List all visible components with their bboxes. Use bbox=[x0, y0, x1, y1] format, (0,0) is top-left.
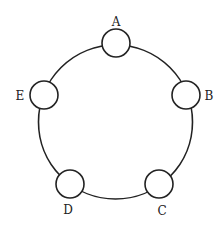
node-label: C bbox=[157, 204, 166, 218]
ring-diagram: ABCDE bbox=[0, 0, 224, 228]
node-d: D bbox=[56, 170, 84, 217]
node-label: A bbox=[111, 15, 121, 29]
ring-diagram-svg: ABCDE bbox=[0, 0, 224, 228]
node-label: D bbox=[63, 203, 73, 217]
node-circle bbox=[102, 29, 130, 57]
node-circle bbox=[145, 170, 173, 198]
node-circle bbox=[30, 81, 58, 109]
node-label: B bbox=[205, 89, 214, 103]
node-e: E bbox=[16, 81, 58, 109]
node-circle bbox=[172, 81, 200, 109]
node-label: E bbox=[16, 89, 25, 103]
node-a: A bbox=[102, 15, 130, 57]
node-b: B bbox=[172, 81, 214, 109]
node-c: C bbox=[145, 170, 173, 218]
node-circle bbox=[56, 170, 84, 198]
